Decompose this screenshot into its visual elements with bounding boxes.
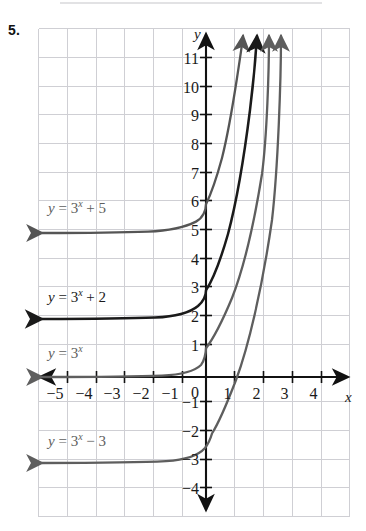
y-tick-label: 10: [171, 80, 199, 96]
curve-label-3x-minus-3: y = 3x − 3: [48, 432, 106, 449]
y-tick-label: 4: [171, 252, 199, 268]
curve-label-3x-plus-5: y = 3x + 5: [48, 199, 106, 216]
x-axis-name: x: [345, 390, 352, 405]
curve-label-text: y = 3x + 5: [48, 200, 106, 216]
y-tick-label: −4: [166, 481, 199, 497]
figure-root: 5.: [0, 0, 366, 531]
y-tick-label: 8: [171, 137, 199, 153]
x-tick-label: −5: [41, 386, 69, 402]
y-tick-label: 9: [171, 108, 199, 124]
y-tick-label: 7: [171, 166, 199, 182]
curve-label-3x-plus-2: y = 3x + 2: [48, 288, 106, 305]
y-tick-label: 3: [171, 280, 199, 296]
curve-3x-plus-2: [42, 36, 257, 319]
curve-label-text: y = 3x + 2: [48, 289, 106, 305]
x-tick-label: 4: [306, 386, 321, 402]
x-tick-label: 1: [220, 386, 235, 402]
y-tick-label: 5: [171, 223, 199, 239]
y-axis-name: y: [194, 27, 201, 42]
y-tick-label: 1: [171, 338, 199, 354]
y-tick-label: −2: [166, 424, 199, 440]
curve-label-text: y = 3x: [48, 345, 83, 361]
curve-label-text: y = 3x − 3: [48, 433, 106, 449]
y-tick-label: 11: [171, 51, 199, 67]
curve-label-3x: y = 3x: [48, 344, 83, 361]
origin-label: 0: [188, 385, 202, 401]
y-tick-label: 2: [171, 309, 199, 325]
x-tick-label: −4: [70, 386, 98, 402]
y-tick-label: 6: [171, 194, 199, 210]
x-tick-label: 2: [249, 386, 264, 402]
x-tick-label: 3: [277, 386, 292, 402]
x-tick-label: −3: [98, 386, 126, 402]
y-tick-label: −3: [166, 452, 199, 468]
x-tick-label: −2: [127, 386, 155, 402]
x-tick-label: −1: [156, 386, 184, 402]
